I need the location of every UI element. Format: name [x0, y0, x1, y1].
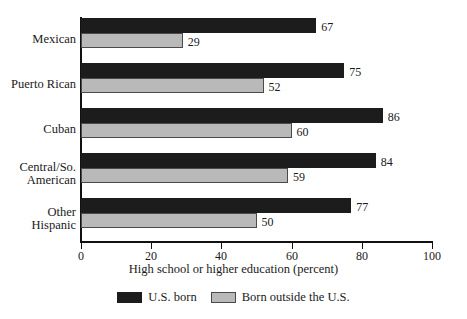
bar-born-outside-us[interactable]	[81, 123, 292, 138]
legend-swatch-icon-us-born	[117, 292, 142, 303]
bar-us-born[interactable]	[81, 18, 316, 33]
bar-born-outside-us[interactable]	[81, 78, 264, 93]
x-axis-line	[80, 241, 433, 243]
bar-value-label: 52	[269, 81, 281, 93]
bar-group: 6729	[81, 18, 432, 48]
bar-born-outside-us[interactable]	[81, 33, 183, 48]
legend: U.S. born Born outside the U.S.	[0, 290, 467, 305]
legend-label-us-born: U.S. born	[148, 290, 196, 305]
bar-value-label: 84	[381, 156, 393, 168]
bar-born-outside-us[interactable]	[81, 213, 257, 228]
bar-group: 7750	[81, 198, 432, 228]
bar-born-outside-us[interactable]	[81, 168, 288, 183]
bar-value-label: 59	[293, 171, 305, 183]
bar-value-label: 75	[349, 66, 361, 78]
bar-group: 7552	[81, 63, 432, 93]
bar-us-born[interactable]	[81, 108, 383, 123]
plot-area: 67297552866084597750	[81, 18, 432, 240]
bar-value-label: 29	[188, 36, 200, 48]
category-label-mexican: Mexican	[2, 33, 76, 46]
bar-value-label: 50	[262, 216, 274, 228]
bar-value-label: 86	[388, 111, 400, 123]
bar-us-born[interactable]	[81, 63, 344, 78]
bar-value-label: 60	[297, 126, 309, 138]
category-axis: Mexican Puerto Rican Cuban Central/So. A…	[0, 0, 76, 242]
legend-item-us-born: U.S. born	[117, 290, 196, 305]
legend-item-born-outside-us: Born outside the U.S.	[211, 290, 350, 305]
bar-us-born[interactable]	[81, 198, 351, 213]
category-label-cuban: Cuban	[2, 123, 76, 136]
legend-swatch-icon-born-outside-us	[211, 292, 236, 303]
bar-value-label: 67	[321, 21, 333, 33]
legend-label-born-outside-us: Born outside the U.S.	[242, 290, 350, 305]
bar-group: 8459	[81, 153, 432, 183]
bar-group: 8660	[81, 108, 432, 138]
bar-us-born[interactable]	[81, 153, 376, 168]
category-label-central-so-american: Central/So. American	[2, 161, 76, 186]
category-label-puerto-rican: Puerto Rican	[2, 78, 76, 91]
bar-chart: Mexican Puerto Rican Cuban Central/So. A…	[0, 0, 467, 319]
bar-value-label: 77	[356, 201, 368, 213]
category-label-other-hispanic: Other Hispanic	[2, 206, 76, 231]
x-axis-title: High school or higher education (percent…	[0, 262, 467, 277]
